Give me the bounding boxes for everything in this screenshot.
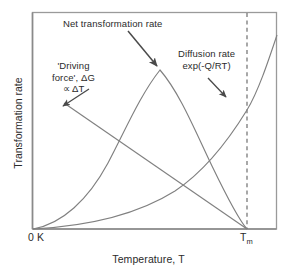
x-tick-label-melting-temperature: Tm	[240, 232, 253, 248]
diffusion-rate-arrow	[208, 78, 226, 97]
annotation-net-transformation-rate: Net transformation rate	[63, 18, 162, 30]
annotation-driving-line3: ∝ ΔT	[52, 83, 95, 95]
annotation-driving-force: 'Driving force', ΔG ∝ ΔT	[52, 60, 95, 95]
y-axis-title: Transformation rate	[12, 28, 24, 218]
annotation-driving-line1: 'Driving	[52, 60, 95, 72]
x-tick-label-zero-kelvin: 0 K	[28, 232, 44, 244]
driving-force-curve	[64, 103, 247, 229]
annotation-net-line1: Net transformation rate	[63, 18, 162, 29]
annotation-diffusion-rate: Diffusion rate exp(-Q/RT)	[178, 48, 235, 71]
annotation-diffusion-line2: exp(-Q/RT)	[178, 60, 235, 72]
transformation-rate-chart: Net transformation rate Diffusion rate e…	[0, 0, 297, 280]
x-axis-title: Temperature, T	[0, 254, 297, 266]
annotation-diffusion-line1: Diffusion rate	[178, 48, 235, 60]
tm-subscript: m	[247, 237, 253, 246]
annotation-driving-line2: force', ΔG	[52, 72, 95, 84]
net-transformation-rate-arrow	[128, 31, 157, 66]
